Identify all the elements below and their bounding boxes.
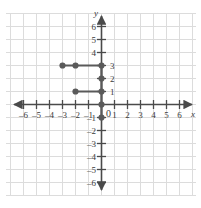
data-point bbox=[59, 62, 65, 68]
x-tick-label: 6 bbox=[177, 110, 182, 120]
data-point bbox=[72, 62, 78, 68]
x-tick-label: –6 bbox=[18, 110, 29, 120]
coordinate-plane-figure: –6 –5 –4 –3 –2 –1 1 2 3 4 5 6 6 5 4 3 2 … bbox=[0, 0, 201, 208]
x-tick-label: 5 bbox=[164, 110, 169, 120]
x-tick-label: 1 bbox=[112, 110, 117, 120]
y-tick-label: 2 bbox=[110, 74, 115, 84]
data-point bbox=[72, 88, 78, 94]
x-tick-label: –3 bbox=[57, 110, 68, 120]
x-tick-label: 3 bbox=[138, 110, 143, 120]
y-tick-label: –2 bbox=[86, 126, 96, 136]
x-axis-label: x bbox=[190, 109, 195, 119]
x-tick-label: –2 bbox=[70, 110, 80, 120]
y-tick-label: 4 bbox=[92, 48, 97, 58]
data-point bbox=[98, 114, 104, 120]
data-point bbox=[98, 75, 104, 81]
y-tick-label: –3 bbox=[86, 139, 97, 149]
y-tick-label: –6 bbox=[86, 178, 97, 188]
x-tick-label: –5 bbox=[31, 110, 42, 120]
x-tick-label: 2 bbox=[125, 110, 130, 120]
y-tick-label: 6 bbox=[92, 22, 97, 32]
data-point bbox=[98, 101, 104, 107]
y-tick-label: –4 bbox=[86, 152, 97, 162]
y-tick-label: –1 bbox=[86, 113, 96, 123]
graph-screenshot: –6 –5 –4 –3 –2 –1 1 2 3 4 5 6 6 5 4 3 2 … bbox=[0, 0, 201, 208]
y-tick-label: 3 bbox=[110, 61, 115, 71]
x-tick-label: 4 bbox=[151, 110, 156, 120]
origin-label: 0 bbox=[106, 108, 111, 119]
x-tick-label: –4 bbox=[44, 110, 55, 120]
data-point bbox=[98, 62, 104, 68]
y-tick-label: 5 bbox=[92, 35, 97, 45]
y-tick-label: 1 bbox=[110, 87, 115, 97]
data-point bbox=[98, 88, 104, 94]
y-tick-label: –5 bbox=[86, 165, 97, 175]
y-axis-label: y bbox=[93, 8, 98, 18]
